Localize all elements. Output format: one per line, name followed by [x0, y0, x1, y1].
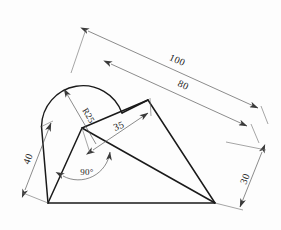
dimension-label-80: 80: [176, 78, 190, 92]
extension-line-30-bottom: [215, 203, 243, 210]
extension-line-80-right: [251, 124, 259, 143]
left-vertical-edge: [42, 127, 49, 204]
technical-drawing-svg: 100 80 35 40 30 R25 90°: [0, 0, 281, 230]
technical-drawing-canvas: 100 80 35 40 30 R25 90°: [0, 0, 281, 230]
dimension-label-35: 35: [112, 119, 126, 133]
radius-arc: [42, 86, 123, 127]
dimension-label-100: 100: [168, 51, 187, 68]
hub-to-bottom-right-spoke: [82, 128, 215, 203]
dimension-line-80: [111, 64, 247, 126]
hub-to-bottom-left-spoke: [48, 128, 82, 203]
extension-line-40-bottom: [23, 193, 48, 203]
extension-line-30-top: [226, 142, 266, 150]
extension-line-40-top: [42, 121, 54, 127]
right-slanted-edge: [148, 100, 215, 203]
extension-line-100-left: [71, 29, 86, 73]
dimension-line-100: [88, 31, 258, 108]
dimension-label-40: 40: [21, 152, 35, 166]
extension-line-100-right: [261, 106, 268, 124]
dimension-label-90-degrees: 90°: [80, 167, 94, 177]
extension-line-35-right: [150, 98, 151, 116]
